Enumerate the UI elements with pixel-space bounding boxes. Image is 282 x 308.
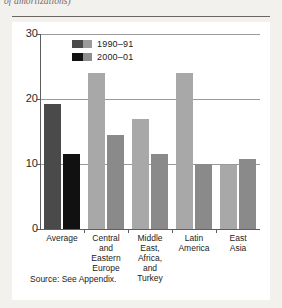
category-label-latin-america: LatinAmerica: [172, 233, 216, 253]
bar-1990-91: [132, 119, 149, 230]
category-label-line: America: [172, 243, 216, 253]
category-label-line: Asia: [216, 243, 260, 253]
category-label-middle-east-africa-and-turkey: MiddleEast,Africa,andTurkey: [128, 233, 172, 283]
category-label-line: Latin: [172, 233, 216, 243]
category-axis-labels: AverageCentralandEasternEuropeMiddleEast…: [40, 233, 260, 293]
category-label-line: Turkey: [128, 273, 172, 283]
bar-2000-01: [107, 135, 124, 229]
y-tick-label-10: 10: [14, 157, 38, 169]
category-label-line: Central: [84, 233, 128, 243]
bar-plot-area: [40, 22, 260, 229]
category-label-average: Average: [40, 233, 84, 243]
bar-1990-91: [88, 73, 105, 229]
category-label-line: Middle: [128, 233, 172, 243]
category-label-line: and: [128, 263, 172, 273]
x-axis-group-tick: [128, 229, 129, 233]
category-label-line: Average: [40, 233, 84, 243]
bar-2000-01: [195, 164, 212, 229]
source-note: Source: See Appendix.: [30, 274, 116, 284]
bar-2000-01: [239, 159, 256, 229]
y-tick-label-30: 30: [14, 27, 38, 39]
clipped-caption-text: of amortizations): [4, 0, 204, 10]
category-label-central-and-eastern-europe: CentralandEasternEurope: [84, 233, 128, 273]
category-label-line: Eastern: [84, 253, 128, 263]
page-background: of amortizations) 30 20 10 0 1990–91: [0, 0, 282, 308]
category-label-line: Europe: [84, 263, 128, 273]
chart-card: 30 20 10 0 1990–91 2000–01 A: [12, 22, 270, 300]
horizontal-rule: [12, 16, 270, 17]
y-tick-mark-0: [36, 229, 41, 230]
y-tick-label-20: 20: [14, 92, 38, 104]
category-label-line: and: [84, 243, 128, 253]
bar-1990-91: [44, 104, 61, 229]
bar-1990-91: [176, 73, 193, 229]
x-axis-group-tick: [216, 229, 217, 233]
category-label-east-asia: EastAsia: [216, 233, 260, 253]
x-axis-group-tick: [84, 229, 85, 233]
x-axis-line: [40, 229, 260, 230]
bar-2000-01: [151, 154, 168, 229]
y-tick-label-0: 0: [14, 222, 38, 234]
category-label-line: East,: [128, 243, 172, 253]
category-label-line: East: [216, 233, 260, 243]
bar-2000-01: [63, 154, 80, 229]
x-axis-group-tick: [172, 229, 173, 233]
bar-1990-91: [220, 165, 237, 229]
category-label-line: Africa,: [128, 253, 172, 263]
